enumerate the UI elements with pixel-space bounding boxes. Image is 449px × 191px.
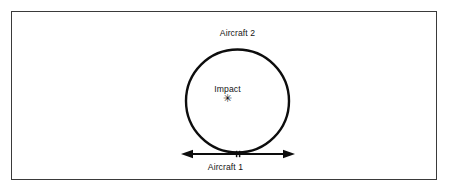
label-aircraft-2: Aircraft 2: [0, 29, 449, 38]
arrow-head-right-icon: [283, 150, 295, 158]
label-aircraft-1: Aircraft 1: [0, 163, 449, 172]
impact-point-marker: ✳: [0, 93, 449, 104]
label-aircraft-1-text: Aircraft 1: [208, 162, 243, 172]
label-aircraft-2-text: Aircraft 2: [220, 28, 255, 38]
asterisk-icon: ✳: [223, 92, 232, 104]
figure-container: Aircraft 2 Impact ✳ Aircraft 1: [0, 0, 449, 191]
arrow-head-left-icon: [181, 150, 193, 158]
